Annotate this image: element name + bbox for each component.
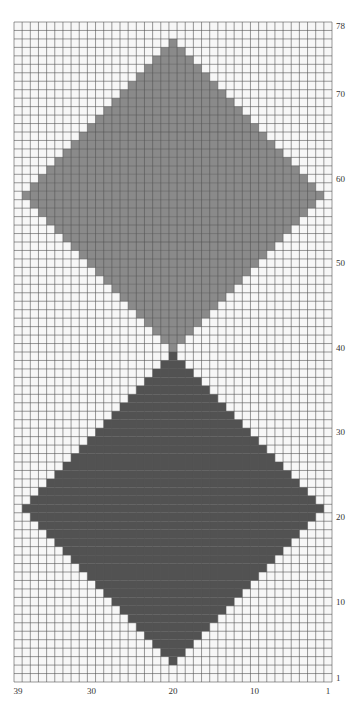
dark-diamond-row [47, 479, 300, 487]
x-tick-label: 20 [169, 686, 179, 696]
light-diamond-row [161, 47, 185, 55]
x-tick-label: 1 [326, 686, 331, 696]
y-tick-label: 1 [336, 673, 341, 683]
light-diamond-row [30, 183, 315, 191]
x-axis-labels: 393020101 [14, 686, 331, 696]
dark-diamond-row [169, 352, 177, 360]
light-diamond-row [120, 90, 226, 98]
light-diamond-row [87, 259, 258, 267]
y-axis-labels: 11020304050607078 [336, 21, 346, 683]
dark-diamond-row [112, 411, 234, 419]
dark-diamond-row [161, 360, 185, 368]
x-tick-label: 10 [250, 686, 260, 696]
light-diamond-row [144, 318, 201, 326]
dark-diamond-row [30, 513, 315, 521]
dark-diamond-row [128, 394, 218, 402]
light-diamond-row [79, 250, 267, 258]
x-tick-label: 39 [14, 686, 24, 696]
light-diamond-row [161, 335, 185, 343]
light-diamond-row [38, 174, 307, 182]
dark-diamond-row [96, 428, 251, 436]
y-tick-label: 50 [336, 258, 346, 268]
light-diamond-row [169, 344, 177, 352]
light-diamond-row [112, 98, 234, 106]
knitting-chart: 393020101 11020304050607078 [0, 0, 362, 719]
dark-diamond-row [79, 445, 267, 453]
dark-diamond-row [38, 521, 307, 529]
light-diamond-row [96, 267, 251, 275]
light-diamond-row [87, 124, 258, 132]
light-diamond-row [153, 327, 194, 335]
dark-diamond-row [144, 631, 201, 639]
light-diamond-row [112, 284, 234, 292]
light-diamond-row [55, 157, 291, 165]
light-diamond-row [136, 310, 209, 318]
dark-diamond-row [87, 572, 258, 580]
light-diamond-row [71, 242, 275, 250]
dark-diamond-row [55, 470, 291, 478]
dark-diamond-row [38, 487, 307, 495]
light-diamond-row [47, 217, 300, 225]
light-diamond-row [63, 234, 283, 242]
y-tick-label: 78 [336, 21, 346, 31]
light-diamond-row [153, 56, 194, 64]
y-tick-label: 10 [336, 597, 346, 607]
light-diamond-row [55, 225, 291, 233]
light-diamond-row [96, 115, 251, 123]
light-diamond-row [144, 64, 201, 72]
dark-diamond-row [153, 640, 194, 648]
light-diamond-row [120, 293, 226, 301]
light-diamond-row [128, 301, 218, 309]
light-diamond-row [30, 200, 315, 208]
dark-diamond-row [153, 369, 194, 377]
y-tick-label: 70 [336, 89, 346, 99]
dark-diamond-row [136, 386, 209, 394]
dark-diamond-row [55, 538, 291, 546]
dark-diamond-row [71, 454, 275, 462]
dark-diamond-row [112, 597, 234, 605]
x-tick-label: 30 [87, 686, 97, 696]
dark-diamond-row [22, 504, 324, 512]
y-tick-label: 30 [336, 427, 346, 437]
light-diamond-row [136, 73, 209, 81]
y-tick-label: 60 [336, 174, 346, 184]
light-diamond-row [104, 276, 243, 284]
dark-diamond-row [104, 589, 243, 597]
light-diamond-row [38, 208, 307, 216]
dark-diamond-row [87, 437, 258, 445]
y-tick-label: 40 [336, 343, 346, 353]
light-diamond-row [22, 191, 324, 199]
dark-diamond-row [71, 555, 275, 563]
dark-diamond-row [120, 403, 226, 411]
dark-diamond-row [161, 648, 185, 656]
light-diamond-row [47, 166, 300, 174]
dark-diamond-row [79, 564, 267, 572]
light-diamond-row [169, 39, 177, 47]
dark-diamond-row [30, 496, 315, 504]
dark-diamond-row [128, 614, 218, 622]
light-diamond-row [104, 107, 243, 115]
dark-diamond-row [96, 580, 251, 588]
light-diamond-row [79, 132, 267, 140]
dark-diamond-row [169, 657, 177, 665]
dark-diamond-row [136, 623, 209, 631]
light-diamond-row [128, 81, 218, 89]
y-tick-label: 20 [336, 512, 346, 522]
dark-diamond-row [63, 462, 283, 470]
dark-diamond-row [144, 377, 201, 385]
dark-diamond-row [63, 547, 283, 555]
light-diamond-row [63, 149, 283, 157]
light-diamond-row [71, 140, 275, 148]
dark-diamond-row [47, 530, 300, 538]
dark-diamond-row [120, 606, 226, 614]
dark-diamond-row [104, 420, 243, 428]
